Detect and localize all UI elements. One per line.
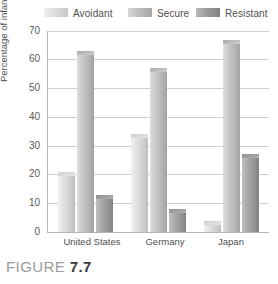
legend-swatch-secure — [128, 8, 152, 17]
bar-chart: Percentage of infants 70 60 50 40 30 20 … — [0, 22, 278, 250]
bar-germany-resistant — [169, 209, 186, 232]
legend-item-resistant: Resistant — [196, 4, 268, 18]
bar-body — [242, 158, 259, 232]
bar-body — [77, 55, 94, 232]
bar-body — [150, 72, 167, 232]
y-tick-30: 30 — [0, 141, 40, 151]
gridline-70 — [48, 31, 269, 32]
y-tick-0: 0 — [0, 227, 40, 237]
bar-body — [96, 199, 113, 232]
y-tick-60: 60 — [0, 54, 40, 64]
legend-item-avoidant: Avoidant — [44, 4, 113, 18]
legend-item-secure: Secure — [128, 4, 189, 18]
bar-united-states-secure — [77, 51, 94, 232]
bar-body — [58, 176, 75, 232]
plot-area — [47, 31, 269, 233]
bar-germany-secure — [150, 68, 167, 232]
y-tick-20: 20 — [0, 169, 40, 179]
bar-japan-secure — [223, 40, 240, 232]
legend-swatch-avoidant — [44, 8, 68, 17]
bar-japan-resistant — [242, 154, 259, 232]
y-tick-50: 50 — [0, 83, 40, 93]
figure-caption: FIGURE 7.7 — [6, 258, 92, 275]
bar-body — [223, 44, 240, 232]
y-tick-10: 10 — [0, 198, 40, 208]
bar-united-states-avoidant — [58, 172, 75, 232]
bar-body — [204, 225, 221, 232]
figure-caption-number: 7.7 — [70, 258, 92, 275]
legend-label-secure: Secure — [157, 8, 189, 19]
bar-body — [169, 213, 186, 232]
y-tick-70: 70 — [0, 26, 40, 36]
legend-label-avoidant: Avoidant — [73, 8, 113, 19]
figure-caption-prefix: FIGURE — [6, 258, 65, 275]
x-category-japan: Japan — [194, 236, 268, 247]
bar-body — [131, 138, 148, 232]
chart-legend: Avoidant Secure Resistant — [0, 4, 278, 20]
y-tick-40: 40 — [0, 112, 40, 122]
legend-swatch-resistant — [196, 8, 220, 17]
y-axis-label: Percentage of infants — [0, 0, 9, 82]
bar-united-states-resistant — [96, 195, 113, 232]
bar-japan-avoidant — [204, 221, 221, 232]
legend-label-resistant: Resistant — [225, 8, 268, 19]
bar-germany-avoidant — [131, 134, 148, 232]
